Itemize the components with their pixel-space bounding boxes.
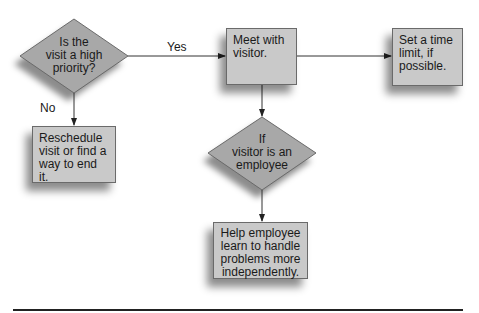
meet-visitor-box: Meet with visitor. — [226, 28, 297, 85]
reschedule-box: Reschedule visit or find a way to end it… — [32, 126, 116, 183]
decision-employee-text: If visitor is an employee — [222, 133, 302, 172]
help-employee-box: Help employee learn to handle problems m… — [213, 222, 308, 279]
text-line: employee — [222, 159, 302, 172]
yes-label: Yes — [167, 40, 187, 54]
time-limit-box: Set a time limit, if possible. — [392, 28, 463, 86]
decision-priority-text: Is the visit a high priority? — [34, 36, 114, 75]
text-line: priority? — [34, 62, 114, 75]
bottom-rule — [13, 309, 463, 311]
no-label: No — [40, 101, 55, 115]
